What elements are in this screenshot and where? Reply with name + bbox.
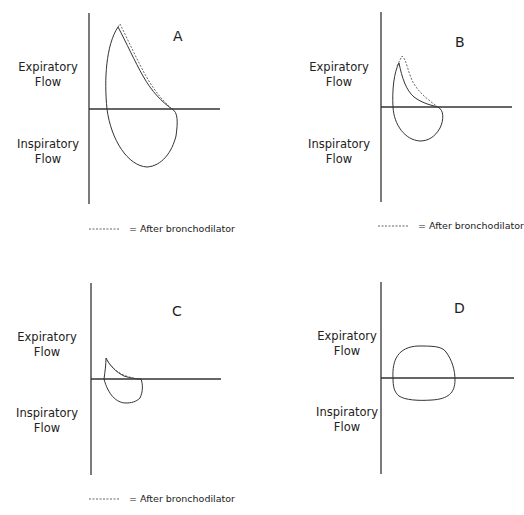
panel-letter: A xyxy=(173,28,183,44)
inspiratory-flow-label: Flow xyxy=(34,421,60,435)
expiratory-label: Expiratory xyxy=(309,60,369,74)
panel-c: Expiratory Flow Inspiratory Flow C = Aft… xyxy=(16,283,235,504)
inspiratory-flow-label: Flow xyxy=(326,152,352,166)
inspiratory-flow-label: Flow xyxy=(334,420,360,434)
legend-text: = After bronchodilator xyxy=(418,220,524,231)
inspiratory-label: Inspiratory xyxy=(316,405,378,419)
legend-text: = After bronchodilator xyxy=(129,493,235,504)
panel-a: Expiratory Flow Inspiratory Flow A = Aft… xyxy=(17,13,235,234)
panel-d: Expiratory Flow Inspiratory Flow D xyxy=(316,282,514,474)
legend-text: = After bronchodilator xyxy=(129,223,235,234)
inspiratory-flow-label: Flow xyxy=(35,152,61,166)
flow-volume-loops-figure: Expiratory Flow Inspiratory Flow A = Aft… xyxy=(0,0,524,515)
expiratory-flow-label: Flow xyxy=(34,345,60,359)
expiratory-flow-label: Flow xyxy=(334,344,360,358)
inspiratory-label: Inspiratory xyxy=(308,137,370,151)
expiratory-label: Expiratory xyxy=(317,329,377,343)
flow-volume-loop xyxy=(393,63,443,141)
expiratory-label: Expiratory xyxy=(17,330,77,344)
expiratory-flow-label: Flow xyxy=(35,75,61,89)
expiratory-label: Expiratory xyxy=(18,60,78,74)
flow-volume-loop xyxy=(106,27,177,167)
panel-letter: D xyxy=(454,300,465,316)
panel-b: Expiratory Flow Inspiratory Flow B = Aft… xyxy=(308,12,524,231)
inspiratory-label: Inspiratory xyxy=(16,406,78,420)
panel-letter: C xyxy=(172,303,182,319)
post-bronchodilator-curve xyxy=(118,24,172,109)
flow-volume-loop xyxy=(104,358,142,403)
flow-volume-loop xyxy=(393,346,455,400)
expiratory-flow-label: Flow xyxy=(326,75,352,89)
panel-letter: B xyxy=(455,34,465,50)
inspiratory-label: Inspiratory xyxy=(17,137,79,151)
